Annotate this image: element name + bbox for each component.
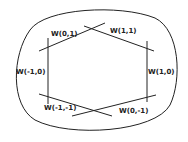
label-bottom-right: W(0,-1): [119, 107, 148, 115]
label-bottom-left: W(-1,-1): [44, 104, 76, 112]
label-top-right: W(1,1): [110, 27, 137, 35]
label-left: W(-1,0): [16, 68, 45, 76]
diagram-canvas: W(0,1) W(1,1) W(-1,0) W(1,0) W(-1,-1) W(…: [0, 0, 188, 142]
label-right: W(1,0): [148, 68, 175, 76]
label-top-left: W(0,1): [51, 30, 78, 38]
